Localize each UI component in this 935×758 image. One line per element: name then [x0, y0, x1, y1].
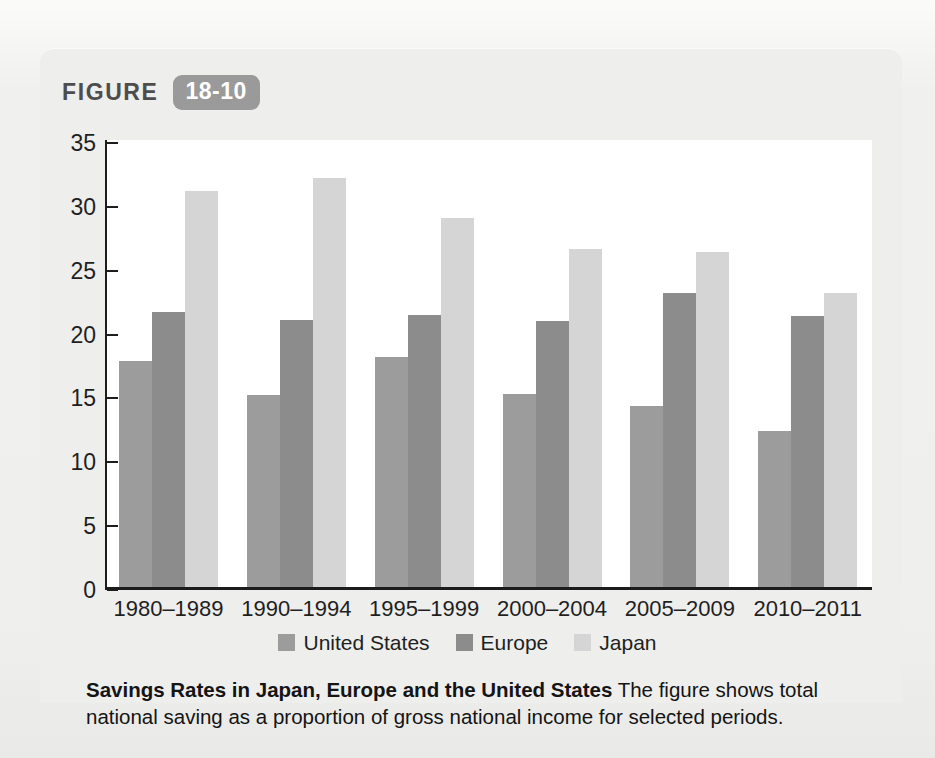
bar-japan: [185, 191, 218, 587]
figure-caption: Savings Rates in Japan, Europe and the U…: [86, 676, 876, 731]
figure-number-badge: 18-10: [173, 75, 260, 110]
bar-group: [375, 140, 474, 587]
plot-area: [105, 140, 872, 590]
x-axis-line: [105, 587, 872, 590]
x-axis-tick-label: 2005–2009: [625, 596, 735, 622]
figure-label: FIGURE: [62, 79, 159, 106]
bars-layer: [105, 140, 872, 587]
y-axis-tick: [107, 589, 118, 591]
y-axis-tick-label: 25: [70, 259, 96, 282]
bar-europe: [536, 321, 569, 587]
y-axis-tick-label: 30: [70, 195, 96, 218]
y-axis-tick-label: 5: [83, 515, 96, 538]
bar-japan: [441, 218, 474, 587]
y-axis-tick: [107, 397, 118, 399]
legend-label: Japan: [599, 632, 656, 653]
y-axis-tick: [107, 461, 118, 463]
x-axis-tick-label: 2000–2004: [497, 596, 607, 622]
bar-united-states: [119, 361, 152, 587]
bar-europe: [663, 293, 696, 587]
y-axis-tick: [107, 270, 118, 272]
bar-europe: [408, 315, 441, 587]
x-axis-tick-label: 2010–2011: [753, 596, 862, 622]
bar-japan: [696, 252, 729, 587]
x-axis-tick-label: 1995–1999: [369, 596, 479, 622]
bar-united-states: [630, 406, 663, 587]
chart-legend: United StatesEuropeJapan: [0, 632, 935, 653]
legend-label: United States: [303, 632, 429, 653]
bar-europe: [280, 320, 313, 587]
bar-group: [247, 140, 346, 587]
bar-group: [630, 140, 729, 587]
bar-japan: [313, 178, 346, 587]
y-axis-tick: [107, 525, 118, 527]
legend-swatch-icon: [278, 634, 295, 651]
y-axis-tick-label: 35: [70, 132, 96, 155]
x-axis-tick-label: 1990–1994: [241, 596, 351, 622]
bar-group: [758, 140, 857, 587]
legend-swatch-icon: [574, 634, 591, 651]
y-axis-tick: [107, 142, 118, 144]
caption-title: Savings Rates in Japan, Europe and the U…: [86, 678, 612, 701]
y-axis-tick: [107, 206, 118, 208]
y-axis-labels: 05101520253035: [40, 140, 96, 590]
bar-japan: [824, 293, 857, 587]
bar-united-states: [503, 394, 536, 587]
figure-header: FIGURE 18-10: [62, 75, 260, 110]
y-axis-tick-label: 10: [70, 451, 96, 474]
bar-europe: [791, 316, 824, 587]
y-axis-tick-label: 20: [70, 323, 96, 346]
legend-swatch-icon: [456, 634, 473, 651]
y-axis-tick-label: 15: [70, 387, 96, 410]
x-axis-tick-label: 1980–1989: [113, 596, 223, 622]
bar-group: [119, 140, 218, 587]
bar-united-states: [375, 357, 408, 587]
bar-united-states: [758, 431, 791, 587]
figure-page: FIGURE 18-10 05101520253035 1980–1989199…: [0, 0, 935, 758]
legend-label: Europe: [481, 632, 549, 653]
x-axis-labels: 1980–19891990–19941995–19992000–20042005…: [105, 596, 895, 626]
bar-group: [503, 140, 602, 587]
legend-item[interactable]: United States: [278, 632, 429, 653]
legend-item[interactable]: Japan: [574, 632, 656, 653]
y-axis-tick-label: 0: [83, 579, 96, 602]
y-axis-tick: [107, 334, 118, 336]
bar-japan: [569, 249, 602, 587]
bar-united-states: [247, 395, 280, 587]
legend-item[interactable]: Europe: [456, 632, 549, 653]
bar-europe: [152, 312, 185, 587]
